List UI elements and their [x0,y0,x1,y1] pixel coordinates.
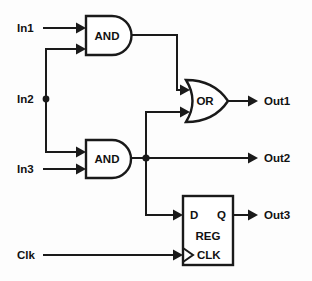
input-label-clk: Clk [17,249,36,261]
wire-or-to-out1 [228,96,258,107]
and-gate-1[interactable]: AND [86,16,132,55]
output-label-out2: Out2 [264,152,290,164]
wire-in3-to-and2 [44,164,86,175]
circuit-diagram: AND AND OR D Q REG CLK In1 In2 In3 Clk O… [0,0,312,281]
wire-reg-q-to-out3 [233,210,258,221]
output-label-out3: Out3 [264,209,290,221]
or-gate-1-label: OR [196,95,214,107]
wire-and1-to-or [133,35,190,96]
junction-dot-and2-output [142,154,149,161]
circuit-canvas: AND AND OR D Q REG CLK In1 In2 In3 Clk O… [0,0,312,281]
register-pin-clk-label: CLK [197,249,221,261]
wire-in1-to-and1 [44,23,86,34]
or-gate-1[interactable]: OR [186,80,228,122]
and-gate-2-label: AND [95,153,120,165]
register-pin-d-label: D [190,209,198,221]
and-gate-2[interactable]: AND [86,140,131,178]
input-label-in1: In1 [17,22,34,34]
junction-dot-in2 [43,96,50,103]
register-label: REG [196,230,221,242]
wire-in2-trunk [43,44,86,158]
input-label-in2: In2 [17,93,34,105]
input-label-in3: In3 [17,163,34,175]
wire-clk-to-reg [44,250,183,261]
register-block[interactable]: D Q REG CLK [183,196,233,265]
and-gate-1-label: AND [95,30,120,42]
output-label-out1: Out1 [264,95,291,107]
register-pin-q-label: Q [217,209,226,221]
